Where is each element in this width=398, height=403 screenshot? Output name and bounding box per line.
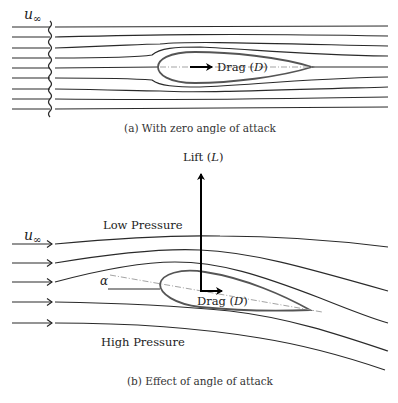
low-pressure-label: Low Pressure [103, 218, 183, 232]
inflow-wavy-line [49, 21, 52, 117]
freestream-label-a: u∞ [24, 6, 41, 24]
figure-a: Drag (D) u∞ (a) With zero angle of attac… [12, 6, 388, 134]
drag-label-b: Drag (D) [197, 294, 248, 308]
freestream-arrows-b [12, 244, 52, 323]
high-pressure-label: High Pressure [101, 335, 185, 349]
drag-label-a: Drag (D) [217, 60, 268, 74]
freestream-label-b: u∞ [24, 227, 41, 245]
lift-label: Lift (L) [183, 150, 223, 164]
angle-of-attack-symbol: α [100, 274, 108, 288]
airfoil-diagram: Drag (D) u∞ (a) With zero angle of attac… [0, 0, 398, 403]
caption-b: (b) Effect of angle of attack [127, 375, 274, 387]
freestream-lines-a [12, 27, 50, 109]
figure-b: α Lift (L) Drag (D) Low Pressure High Pr… [12, 150, 388, 387]
caption-a: (a) With zero angle of attack [124, 122, 277, 134]
